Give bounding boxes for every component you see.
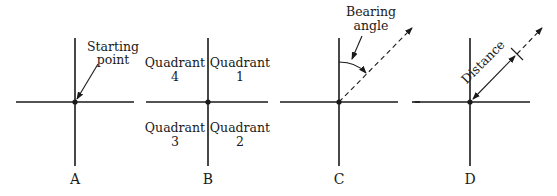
quadrant-3-label: Quadrant bbox=[145, 120, 205, 135]
starting-point-arrow bbox=[77, 64, 98, 99]
bearing-angle-pointer bbox=[352, 36, 362, 59]
panel-label-b: B bbox=[203, 171, 213, 187]
panel-label-a: A bbox=[69, 171, 81, 187]
quadrant-4-number: 4 bbox=[171, 69, 179, 84]
quadrant-2-label: Quadrant bbox=[210, 120, 270, 135]
panel-label-c: C bbox=[334, 171, 345, 187]
panel-c: Bearing angle C bbox=[280, 4, 420, 187]
panel-label-d: D bbox=[464, 171, 475, 187]
bearing-angle-label-line2: angle bbox=[354, 18, 389, 33]
quadrant-1-number: 1 bbox=[236, 69, 244, 84]
quadrant-3-number: 3 bbox=[171, 134, 179, 149]
quadrant-4-label: Quadrant bbox=[145, 55, 205, 70]
starting-point-dot bbox=[72, 99, 77, 104]
origin-dot bbox=[205, 99, 210, 104]
direction-arrow bbox=[517, 28, 542, 54]
distance-label: Distance bbox=[458, 37, 508, 87]
panel-a: Starting point A bbox=[16, 38, 139, 187]
bearing-diagram: Starting point A Quadrant 4 Quadrant 1 Q… bbox=[0, 0, 557, 196]
panel-d: Distance D bbox=[415, 28, 542, 187]
origin-dot bbox=[467, 99, 472, 104]
bearing-angle-label-line1: Bearing bbox=[346, 4, 396, 19]
bearing-angle-arc bbox=[339, 62, 366, 73]
quadrant-1-label: Quadrant bbox=[210, 55, 270, 70]
quadrant-2-number: 2 bbox=[236, 134, 244, 149]
panel-b: Quadrant 4 Quadrant 1 Quadrant 3 Quadran… bbox=[145, 38, 270, 187]
starting-point-label-line2: point bbox=[97, 52, 130, 67]
bearing-direction-arrow bbox=[339, 28, 412, 102]
